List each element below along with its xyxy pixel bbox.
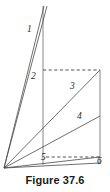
ray-label-1: 1 — [27, 24, 32, 34]
ray-line-4 — [4, 116, 100, 168]
ray-line-5 — [4, 157, 100, 168]
ray-label-6: 6 — [97, 156, 102, 166]
figure-container: 1 2 3 4 5 6 Figure 37.6 — [0, 0, 110, 192]
ray-label-4: 4 — [77, 111, 82, 121]
ray-line-1 — [4, 6, 44, 168]
ray-label-3: 3 — [69, 81, 75, 91]
ray-label-5: 5 — [41, 152, 46, 162]
ray-label-2: 2 — [31, 71, 36, 81]
figure-caption: Figure 37.6 — [0, 174, 110, 186]
ray-diagram: 1 2 3 4 5 6 — [0, 0, 110, 192]
ray-line-3 — [4, 70, 100, 168]
ray-line-2 — [4, 6, 47, 168]
ray-line-6 — [4, 163, 100, 168]
